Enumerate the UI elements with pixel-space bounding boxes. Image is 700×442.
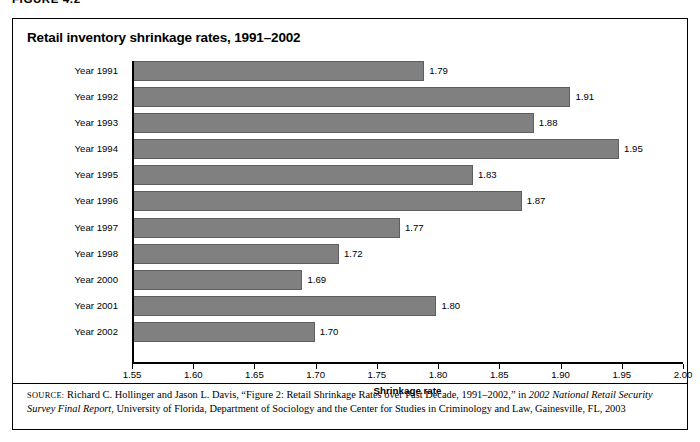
x-axis-tick-label: 1.70 [306, 369, 325, 380]
bar [132, 218, 400, 238]
x-axis-tick [683, 364, 684, 369]
x-axis-tick [438, 364, 439, 369]
x-axis-tick-label: 1.90 [551, 369, 570, 380]
bar-row: Year 19961.87 [21, 191, 681, 217]
bar-row: Year 20021.70 [21, 322, 681, 348]
bar [132, 270, 302, 290]
bar-track: 1.79 [132, 61, 681, 81]
bar [132, 244, 339, 264]
bar-track: 1.88 [132, 113, 681, 133]
x-axis-tick-label: 1.60 [184, 369, 203, 380]
bar-track: 1.91 [132, 87, 681, 107]
bar [132, 139, 619, 159]
x-axis-tick [622, 364, 623, 369]
x-axis-tick [193, 364, 194, 369]
bar-value-label: 1.87 [522, 191, 546, 211]
bar-category-label: Year 1996 [21, 191, 125, 211]
chart-plot-area: Year 19911.79Year 19921.91Year 19931.88Y… [21, 61, 681, 361]
source-note: SOURCE: Richard C. Hollinger and Jason L… [27, 388, 677, 416]
bar-category-label: Year 1995 [21, 165, 125, 185]
bar-row: Year 19981.72 [21, 244, 681, 270]
x-axis-tick-label: 1.95 [612, 369, 631, 380]
x-axis-tick [132, 364, 133, 369]
bar-category-label: Year 1992 [21, 87, 125, 107]
x-axis-tick-labels: 1.551.601.651.701.751.801.851.901.952.00 [132, 369, 683, 383]
x-axis-tick [561, 364, 562, 369]
bar-row: Year 19941.95 [21, 139, 681, 165]
figure-number-header: FIGURE 4.2 [12, 0, 81, 5]
bar-row: Year 19911.79 [21, 61, 681, 87]
bar [132, 322, 315, 342]
chart-title: Retail inventory shrinkage rates, 1991–2… [27, 30, 300, 45]
y-axis-line [132, 61, 134, 363]
bar-track: 1.77 [132, 218, 681, 238]
bar [132, 113, 534, 133]
bar-category-label: Year 1997 [21, 218, 125, 238]
x-axis-tick [316, 364, 317, 369]
bar [132, 87, 570, 107]
bar-value-label: 1.95 [619, 139, 643, 159]
x-axis-tick-label: 1.80 [429, 369, 448, 380]
bar-category-label: Year 1994 [21, 139, 125, 159]
bar-value-label: 1.83 [473, 165, 497, 185]
bar-category-label: Year 2002 [21, 322, 125, 342]
bar-value-label: 1.79 [424, 61, 448, 81]
bar-value-label: 1.69 [302, 270, 326, 290]
bar-value-label: 1.80 [436, 296, 460, 316]
bar [132, 296, 436, 316]
bar-category-label: Year 2001 [21, 296, 125, 316]
bar-value-label: 1.88 [534, 113, 558, 133]
bar [132, 165, 473, 185]
bar-category-label: Year 1998 [21, 244, 125, 264]
source-text-part2: , University of Florida, Department of S… [111, 403, 625, 414]
bar-row: Year 19971.77 [21, 218, 681, 244]
bar-value-label: 1.70 [315, 322, 339, 342]
bar-track: 1.83 [132, 165, 681, 185]
bar-row: Year 20001.69 [21, 270, 681, 296]
bar-value-label: 1.77 [400, 218, 424, 238]
source-divider [13, 383, 687, 384]
figure-frame: Retail inventory shrinkage rates, 1991–2… [12, 18, 688, 430]
source-kicker: SOURCE: [27, 391, 64, 400]
bar-category-label: Year 1991 [21, 61, 125, 81]
x-axis-tick [377, 364, 378, 369]
x-axis-tick [499, 364, 500, 369]
bar-track: 1.80 [132, 296, 681, 316]
bar-row: Year 19921.91 [21, 87, 681, 113]
bar-row: Year 20011.80 [21, 296, 681, 322]
bar-value-label: 1.72 [339, 244, 363, 264]
x-axis-tick-label: 1.85 [490, 369, 509, 380]
source-text-part1: Richard C. Hollinger and Jason L. Davis,… [64, 389, 528, 400]
bar-track: 1.95 [132, 139, 681, 159]
x-axis-tick [254, 364, 255, 369]
x-axis-tick-label: 1.65 [245, 369, 264, 380]
bar-track: 1.72 [132, 244, 681, 264]
bar-value-label: 1.91 [570, 87, 594, 107]
bar-track: 1.70 [132, 322, 681, 342]
bar-category-label: Year 2000 [21, 270, 125, 290]
bar [132, 61, 424, 81]
bar-row: Year 19951.83 [21, 165, 681, 191]
x-axis-tick-marks [132, 364, 683, 369]
x-axis-tick-label: 1.75 [368, 369, 387, 380]
x-axis-tick-label: 1.55 [123, 369, 142, 380]
bar-category-label: Year 1993 [21, 113, 125, 133]
x-axis-tick-label: 2.00 [674, 369, 693, 380]
bar-track: 1.87 [132, 191, 681, 211]
bar-track: 1.69 [132, 270, 681, 290]
bar [132, 191, 522, 211]
bar-row: Year 19931.88 [21, 113, 681, 139]
